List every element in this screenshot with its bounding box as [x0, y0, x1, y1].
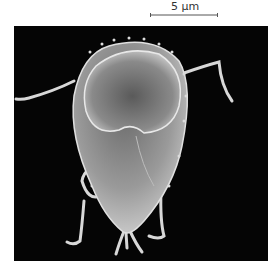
micrograph-image	[14, 26, 268, 261]
scale-bar-label: 5 µm	[168, 0, 202, 13]
specimen-illustration	[14, 26, 268, 261]
scale-bar	[150, 13, 218, 17]
